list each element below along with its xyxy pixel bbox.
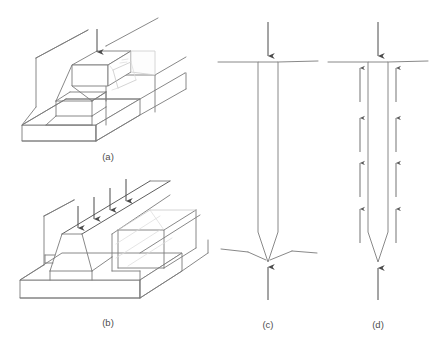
panel-d-pile — [368, 62, 388, 262]
panel-a-group: (a) — [22, 18, 186, 162]
panel-a-base-slab — [22, 99, 140, 141]
figure-root: (a) — [0, 0, 436, 347]
panel-c-group: (c) — [218, 22, 318, 330]
panel-a-footing-front — [72, 65, 108, 86]
panel-c-pile — [258, 62, 278, 262]
panel-b-group: (b) — [20, 179, 208, 328]
panel-d-group: (d) — [328, 22, 428, 330]
panel-d-label: (d) — [372, 319, 384, 330]
panel-b-label: (b) — [102, 317, 114, 328]
panel-a-label: (a) — [102, 151, 114, 162]
panel-c-label: (c) — [262, 319, 273, 330]
panel-b-load-arrows — [78, 179, 126, 228]
diagram-canvas: (a) — [0, 0, 436, 347]
